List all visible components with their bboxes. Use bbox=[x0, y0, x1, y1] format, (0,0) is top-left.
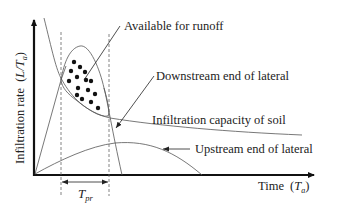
downstream-falling-curve bbox=[104, 88, 122, 175]
y-axis-label: Infiltration rate (L/Ta) bbox=[13, 52, 29, 164]
pointer-available-runoff bbox=[84, 26, 120, 80]
pointer-downstream bbox=[116, 76, 154, 128]
label-available-runoff: Available for runoff bbox=[124, 19, 224, 33]
label-upstream-end: Upstream end of lateral bbox=[195, 142, 313, 156]
label-downstream-end: Downstream end of lateral bbox=[156, 69, 289, 83]
x-axis-label: Time (Ta) bbox=[258, 179, 309, 195]
runoff-dots bbox=[67, 60, 100, 110]
tpr-label: Tpr bbox=[78, 186, 93, 203]
label-infiltration-capacity: Infiltration capacity of soil bbox=[152, 113, 286, 127]
infiltration-diagram: Available for runoff Downstream end of l… bbox=[0, 0, 342, 207]
